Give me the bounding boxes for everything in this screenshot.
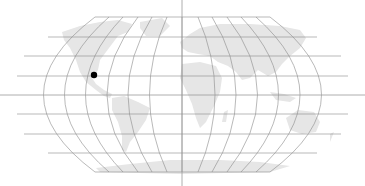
location-marker[interactable] [91,72,97,78]
land-se-asia-islands [270,92,296,102]
world-map [0,0,365,186]
land-masses [62,18,334,174]
land-north-america [62,20,132,98]
land-new-zealand [330,132,334,142]
world-map-svg [0,0,365,186]
map-axes [0,0,365,186]
land-south-america [112,96,150,152]
land-madagascar [222,110,228,122]
